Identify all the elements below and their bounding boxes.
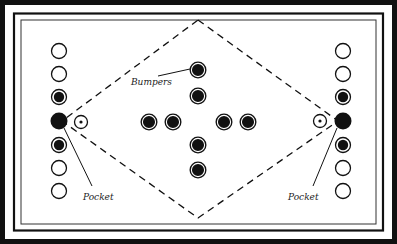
left-target [75, 116, 88, 129]
ringed-hole [336, 138, 351, 153]
left-hole-column [51, 44, 68, 199]
bumper [190, 162, 207, 179]
game-board-diagram: Bumpers Pocket Pocket [0, 0, 397, 244]
left-pocket-label: Pocket [82, 192, 114, 202]
middle-frame [14, 14, 383, 231]
bumper [165, 114, 182, 131]
bumper [216, 114, 233, 131]
bumpers-leader-line [158, 69, 190, 76]
bumpers-label: Bumpers [130, 77, 172, 87]
dashed-diamond [62, 20, 338, 218]
right-pocket [335, 113, 352, 130]
bumper [190, 88, 207, 105]
bumper [141, 114, 158, 131]
empty-hole [52, 161, 67, 176]
empty-hole [336, 67, 351, 82]
ringed-hole [336, 90, 351, 105]
empty-hole [52, 44, 67, 59]
empty-hole [336, 44, 351, 59]
right-target [314, 115, 327, 128]
empty-hole [52, 67, 67, 82]
right-pocket-label: Pocket [287, 192, 319, 202]
ringed-hole [52, 138, 67, 153]
right-hole-column [335, 44, 352, 199]
bumper [240, 114, 257, 131]
empty-hole [52, 184, 67, 199]
right-pocket-leader-line [313, 128, 337, 186]
empty-hole [336, 184, 351, 199]
bumper [190, 62, 207, 79]
left-pocket-leader-line [64, 128, 92, 186]
empty-hole [336, 161, 351, 176]
left-pocket [51, 113, 68, 130]
bumper [190, 137, 207, 154]
ringed-hole [52, 90, 67, 105]
